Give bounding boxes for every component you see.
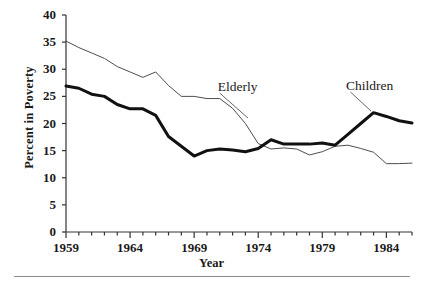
y-tick-label: 5 [26, 197, 56, 213]
series-label-elderly: Elderly [218, 79, 258, 95]
y-tick-label: 10 [26, 170, 56, 186]
leader-lines-group [220, 92, 371, 118]
y-tick-label: 20 [26, 116, 56, 132]
y-tick-label: 40 [26, 7, 56, 23]
poverty-rate-line-chart: Percent in Poverty Year 0510152025303540… [0, 0, 423, 287]
series-label-children: Children [346, 78, 393, 94]
y-tick-label: 0 [26, 224, 56, 240]
x-tick-label: 1964 [100, 240, 160, 256]
y-tick-label: 25 [26, 88, 56, 104]
figure-bottom-rule [14, 276, 410, 277]
x-tick-label: 1974 [228, 240, 288, 256]
series-line-elderly [66, 41, 412, 164]
y-tick-label: 35 [26, 34, 56, 50]
x-tick-label: 1969 [164, 240, 224, 256]
leader-line [350, 92, 371, 111]
y-tick-label: 30 [26, 61, 56, 77]
x-tick-label: 1979 [292, 240, 352, 256]
leader-line [220, 93, 248, 118]
series-line-children [66, 86, 412, 156]
x-tick-label: 1984 [356, 240, 416, 256]
x-tick-label: 1959 [36, 240, 96, 256]
y-tick-label: 15 [26, 143, 56, 159]
series-group [66, 41, 412, 164]
